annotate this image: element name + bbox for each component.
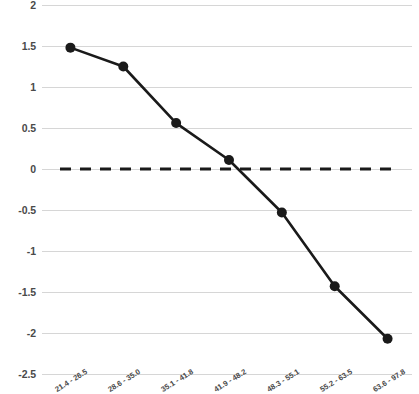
y-axis-tick-labels: 21.510.50-0.5-1-1.5-2-2.5 [0,5,36,374]
y-axis-tick-label: 1 [30,82,36,93]
plot-area [42,5,412,374]
data-point-marker [171,118,181,128]
data-series-line [42,5,412,374]
y-axis-tick-label: 0.5 [22,123,36,134]
y-axis-tick-label: -1.5 [18,287,36,298]
y-axis-tick-label: 2 [30,0,36,10]
y-axis-tick-label: -2.5 [18,369,36,380]
y-axis-tick-label: 0 [30,164,36,175]
y-axis-tick-label: -0.5 [18,205,36,216]
data-point-marker [383,334,393,344]
data-point-marker [330,281,340,291]
data-point-marker [277,207,287,217]
data-point-marker [224,155,234,165]
data-point-marker [118,62,128,72]
y-axis-tick-label: -1 [27,246,36,257]
data-point-marker [65,43,75,53]
y-axis-tick-label: -2 [27,328,36,339]
line-chart: 21.510.50-0.5-1-1.5-2-2.5 21.4 - 26.528.… [0,0,419,394]
y-axis-tick-label: 1.5 [22,41,36,52]
x-axis-tick-labels: 21.4 - 26.528.6 - 35.035.1 - 41.841.9 - … [42,374,412,394]
